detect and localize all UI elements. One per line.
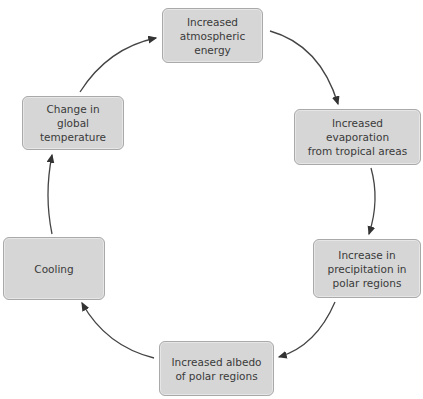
arrow-precipitation-to-albedo xyxy=(279,302,335,357)
node-increase-in-precipitation: Increase in precipitation in polar regio… xyxy=(313,239,421,298)
arrow-evaporation-to-precipitation xyxy=(369,168,375,234)
node-increased-evaporation: Increased evaporation from tropical area… xyxy=(294,109,421,165)
node-increased-atmospheric-energy: Increased atmospheric energy xyxy=(162,8,263,63)
arrow-albedo-to-cooling xyxy=(82,303,154,358)
node-change-in-global-temperature: Change in global temperature xyxy=(22,96,124,150)
arrow-temperature-to-energy xyxy=(80,38,156,92)
arrow-cooling-to-temperature xyxy=(48,155,52,234)
node-cooling: Cooling xyxy=(3,237,105,300)
arrow-energy-to-evaporation xyxy=(270,31,338,104)
node-increased-albedo: Increased albedo of polar regions xyxy=(159,341,274,396)
